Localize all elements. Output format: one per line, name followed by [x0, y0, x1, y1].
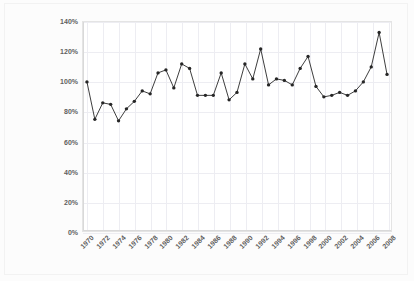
data-point-marker: 2001: 91%	[330, 94, 333, 97]
data-point-marker: 1990: 112%	[243, 62, 246, 65]
data-point-marker: 2003: 91%	[346, 94, 349, 97]
y-tick-label: 40%	[48, 168, 78, 175]
data-point-marker: 1976: 87%	[133, 100, 136, 103]
y-tick-label: 20%	[48, 198, 78, 205]
data-point-marker: 1981: 96%	[172, 86, 175, 89]
data-point-marker: 1982: 112%	[180, 62, 183, 65]
data-point-marker: 1987: 106%	[219, 71, 222, 74]
data-point-marker: 1989: 93%	[235, 91, 238, 94]
data-point-marker: 2007: 133%	[377, 31, 380, 34]
data-point-marker: 2006: 110%	[370, 65, 373, 68]
data-point-marker: 1992: 122%	[259, 47, 262, 50]
data-point-marker: 1974: 74%	[117, 119, 120, 122]
series-pm10-emissions: 1970: 100%1971: 75%1972: 86%1973: 85%197…	[83, 22, 391, 232]
x-axis-tick-labels: 1970197219741976197819801982198419861988…	[82, 234, 392, 280]
data-point-marker: 1985: 91%	[204, 94, 207, 97]
data-point-marker: 1972: 86%	[101, 101, 104, 104]
data-point-marker: 2005: 100%	[362, 80, 365, 83]
data-point-marker: 1977: 94%	[141, 89, 144, 92]
y-tick-label: 120%	[48, 48, 78, 55]
data-point-marker: 1979: 106%	[156, 71, 159, 74]
data-point-marker: 1984: 91%	[196, 94, 199, 97]
y-tick-label: 60%	[48, 138, 78, 145]
data-point-marker: 1971: 75%	[93, 118, 96, 121]
plot-area: 1970: 100%1971: 75%1972: 86%1973: 85%197…	[82, 21, 392, 232]
y-tick-label: 0%	[48, 229, 78, 236]
y-axis-tick-labels: 0%20%40%60%80%100%120%140%	[46, 0, 78, 281]
data-point-marker: 1993: 98%	[267, 83, 270, 86]
data-point-marker: 1970: 100%	[85, 80, 88, 83]
data-point-marker: 2004: 94%	[354, 89, 357, 92]
data-point-marker: 1995: 101%	[283, 79, 286, 82]
chart-screenshot: Global PM10 emissions as a percentage of…	[0, 0, 414, 281]
data-point-marker: 1975: 82%	[125, 107, 128, 110]
data-point-marker: 2008: 105%	[385, 73, 388, 76]
data-point-marker: 1999: 97%	[314, 85, 317, 88]
data-point-marker: 2000: 90%	[322, 95, 325, 98]
y-tick-label: 80%	[48, 108, 78, 115]
data-point-marker: 1978: 92%	[148, 92, 151, 95]
data-point-marker: 1998: 117%	[306, 55, 309, 58]
data-point-marker: 1996: 98%	[291, 83, 294, 86]
y-tick-label: 100%	[48, 78, 78, 85]
data-point-marker: 1994: 102%	[275, 77, 278, 80]
data-point-marker: 1997: 109%	[298, 67, 301, 70]
data-point-marker: 1973: 85%	[109, 103, 112, 106]
data-point-marker: 1983: 109%	[188, 67, 191, 70]
data-point-marker: 1980: 108%	[164, 68, 167, 71]
data-point-marker: 1991: 102%	[251, 77, 254, 80]
series-line	[87, 32, 387, 120]
data-point-marker: 1988: 88%	[227, 98, 230, 101]
y-tick-label: 140%	[48, 18, 78, 25]
data-point-marker: 1986: 91%	[212, 94, 215, 97]
data-point-marker: 2002: 93%	[338, 91, 341, 94]
